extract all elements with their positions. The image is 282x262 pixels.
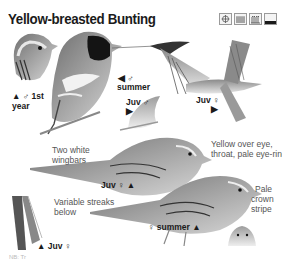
note-crown: Pale	[255, 184, 272, 194]
note-streaks: Variable streaks	[54, 197, 114, 207]
label-juvenile-female-bottom: ▲ Juv ♀	[37, 241, 71, 251]
label-male-summer: summer	[117, 82, 150, 92]
note-crown-line2: crown	[251, 194, 274, 204]
note-eye: Yellow over eye,	[211, 139, 273, 149]
label-juvenile-female-perched: Juv ♀ ▲	[101, 180, 135, 190]
note-wingbars-line2: wingbars	[52, 155, 86, 165]
label-female-summer: ♀ summer ▲	[148, 222, 201, 232]
bird-male-first-year	[14, 34, 58, 81]
label-male-first-year: ▲ ♂ 1st	[12, 91, 44, 101]
note-wingbars: Two white	[52, 145, 90, 155]
note-streaks-line2: below	[54, 207, 76, 217]
label-juvenile-male-arrow: ▶	[126, 106, 133, 116]
bird-head-detail	[228, 226, 256, 246]
footer-text: NB: Tr	[9, 254, 26, 260]
label-juvenile-female-flight-arrow: ▶	[211, 104, 218, 114]
bird-illustrations	[0, 0, 282, 262]
note-crown-line3: stripe	[251, 204, 272, 214]
note-eye-line2: throat, pale eye-ring	[211, 149, 282, 159]
label-male-first-year-line2: year	[12, 101, 30, 111]
